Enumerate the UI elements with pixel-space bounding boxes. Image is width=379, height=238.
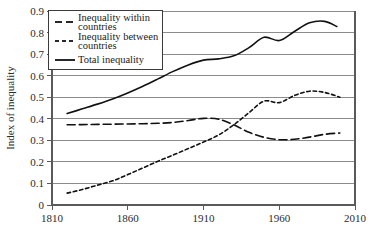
y-tick-label: 0.3: [30, 134, 44, 146]
legend: Inequality within countries Inequality b…: [49, 11, 163, 70]
x-tick-label: 1910: [193, 212, 216, 224]
y-tick-label: 0.9: [30, 5, 44, 17]
x-tick-marks: [52, 205, 355, 210]
chart-canvas: 0.9 0.8 0.7 0.6 0.5 0.4 0.3 0.2 0.1 0 18…: [0, 0, 379, 238]
legend-label: countries: [78, 40, 117, 51]
legend-label: Total inequality: [78, 54, 145, 65]
y-tick-label: 0.6: [30, 70, 44, 82]
x-tick-label: 1960: [268, 212, 291, 224]
x-tick-label: 1860: [117, 212, 140, 224]
y-tick-label: 0.7: [30, 48, 44, 60]
x-tick-label: 2010: [344, 212, 367, 224]
y-tick-label: 0.4: [30, 113, 44, 125]
inequality-line-chart: 0.9 0.8 0.7 0.6 0.5 0.4 0.3 0.2 0.1 0 18…: [0, 0, 379, 238]
x-tick-label: 1810: [41, 212, 64, 224]
y-tick-labels: 0.9 0.8 0.7 0.6 0.5 0.4 0.3 0.2 0.1 0: [30, 5, 44, 211]
y-axis-title: Index of inequality: [4, 66, 16, 150]
x-tick-labels: 1810 1860 1910 1960 2010: [41, 212, 367, 224]
y-tick-label: 0: [39, 199, 45, 211]
y-tick-label: 0.2: [30, 156, 44, 168]
y-tick-label: 0.8: [30, 27, 44, 39]
y-tick-label: 0.5: [30, 91, 44, 103]
y-tick-label: 0.1: [30, 177, 44, 189]
